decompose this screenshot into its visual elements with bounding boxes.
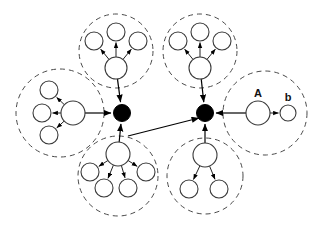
- cluster-left-child-node-1[interactable]: [33, 104, 51, 122]
- hub-to-hub-link: [128, 118, 199, 136]
- cluster-bottom-left-parent-node[interactable]: [106, 142, 130, 166]
- cluster-top-left-child-node-0[interactable]: [107, 23, 125, 41]
- cluster-right-parent-label: A: [254, 87, 262, 99]
- cluster-bottom-right-edge-0: [193, 166, 199, 180]
- cluster-top-right-hub-link: [201, 79, 204, 102]
- cluster-left-parent-node[interactable]: [61, 101, 85, 125]
- cluster-top-left-child-node-1[interactable]: [85, 32, 103, 50]
- diagram-canvas: Ab: [0, 0, 316, 227]
- cluster-top-left-edge-1: [101, 49, 109, 59]
- cluster-hub-diagram: Ab: [0, 0, 316, 227]
- cluster-right-child-label-0: b: [285, 91, 292, 103]
- node-labels-group: Ab: [254, 87, 292, 103]
- cluster-top-right-child-node-0[interactable]: [191, 23, 209, 41]
- cluster-right-parent-node[interactable]: [246, 101, 270, 125]
- cluster-top-left-edge-2: [123, 49, 131, 59]
- cluster-bottom-right-parent-node[interactable]: [193, 143, 217, 167]
- cluster-bottom-right-child-node-1[interactable]: [210, 180, 228, 198]
- cluster-bottom-left-hub-link: [119, 124, 121, 142]
- cluster-top-right-child-node-2[interactable]: [213, 32, 231, 50]
- cluster-top-right-child-node-1[interactable]: [169, 32, 187, 50]
- cluster-bottom-left-child-node-0[interactable]: [81, 163, 99, 181]
- cluster-top-left-child-node-2[interactable]: [129, 32, 147, 50]
- cluster-bottom-left-child-node-3[interactable]: [137, 163, 155, 181]
- cluster-bottom-right-child-node-0[interactable]: [180, 180, 198, 198]
- cluster-nodes-group: [33, 23, 296, 198]
- hub-nodes-group: [114, 105, 214, 122]
- cluster-left-child-node-0[interactable]: [40, 81, 58, 99]
- cluster-bottom-left-edge-3: [128, 160, 137, 166]
- cluster-top-right-edge-1: [185, 49, 193, 59]
- cluster-left-child-node-2[interactable]: [40, 126, 58, 144]
- cluster-left-edge-0: [57, 97, 65, 104]
- cluster-bottom-left-child-node-2[interactable]: [119, 179, 137, 197]
- hub-right[interactable]: [197, 105, 214, 122]
- cluster-bottom-left-edge-0: [99, 160, 108, 166]
- cluster-bottom-left-edge-2: [121, 166, 125, 178]
- cluster-bottom-left-edge-1: [108, 165, 113, 178]
- hub-left[interactable]: [114, 105, 131, 122]
- cluster-top-right-edge-2: [207, 49, 215, 59]
- cluster-bottom-right-edge-1: [210, 166, 215, 179]
- cluster-left-edge-2: [57, 121, 64, 128]
- cluster-top-left-parent-node[interactable]: [105, 57, 127, 79]
- cluster-top-right-parent-node[interactable]: [189, 57, 211, 79]
- cluster-right-child-node-0[interactable]: [280, 105, 296, 121]
- cluster-top-left-hub-link: [117, 79, 120, 102]
- hub-edges-group: [85, 79, 246, 143]
- cluster-bottom-left-child-node-1[interactable]: [95, 179, 113, 197]
